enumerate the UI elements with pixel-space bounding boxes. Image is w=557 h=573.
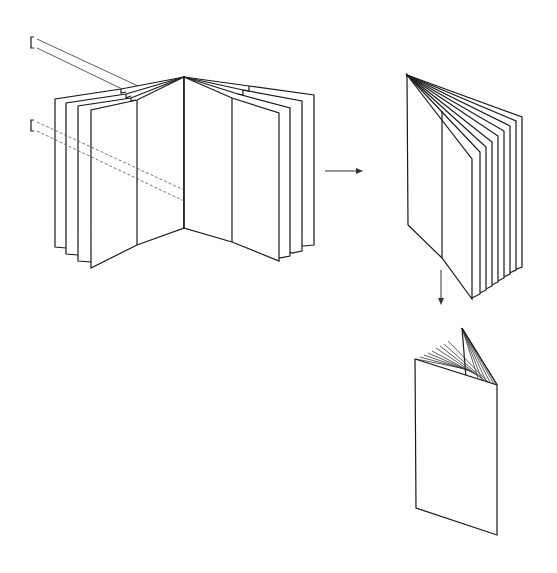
arrow-down-icon (438, 270, 444, 305)
stage-3-closed-booklet (415, 328, 497, 535)
stage-2-gathered-sheets (407, 75, 522, 299)
arrow-right-icon (325, 168, 363, 174)
right-pages (184, 77, 314, 261)
booklet-assembly-diagram (0, 0, 557, 573)
left-pages (55, 77, 184, 268)
booklet-cover (415, 359, 497, 535)
stage-1-open-spread (31, 37, 314, 268)
